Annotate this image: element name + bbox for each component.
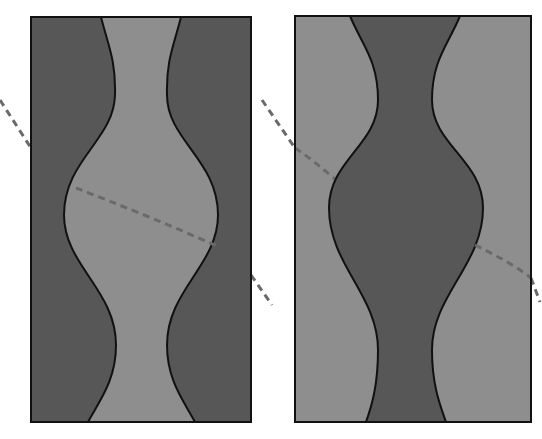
right-dashed-line-outside-bottom bbox=[531, 278, 540, 302]
left-dashed-line-outside-top bbox=[0, 100, 31, 148]
figure bbox=[0, 0, 542, 439]
left-panel bbox=[0, 17, 272, 422]
left-dashed-line-outside-bottom bbox=[251, 275, 272, 305]
right-dashed-line-outside-top bbox=[262, 100, 295, 148]
right-panel bbox=[262, 16, 540, 422]
